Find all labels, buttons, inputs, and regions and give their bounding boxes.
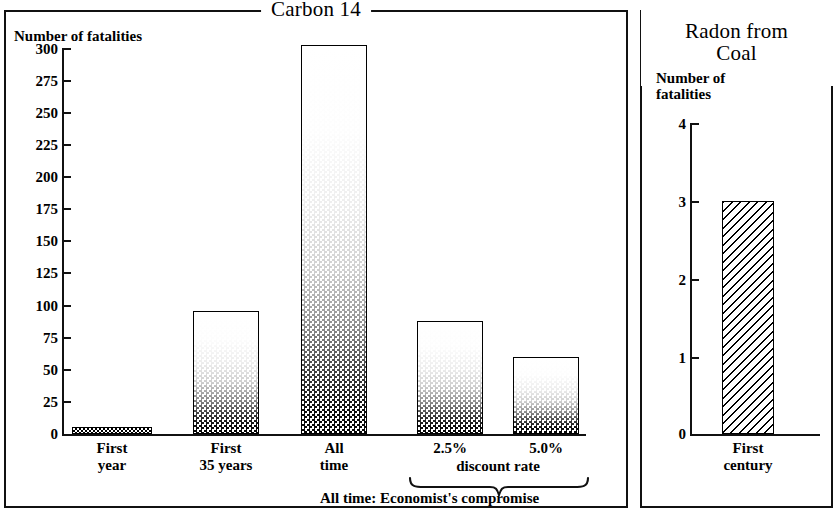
catlabel-first-year-line2: year <box>62 457 162 474</box>
radon-x-axis-line <box>690 434 820 436</box>
carbon-tick-125 <box>62 272 71 274</box>
catlabel-first-35-years-line1: First <box>176 440 276 457</box>
carbon-tick-150 <box>62 240 71 242</box>
figure-root: Carbon 14 Number of fatalities 300 275 2… <box>0 0 837 519</box>
catlabel-first-century-line1: First <box>698 440 798 457</box>
catlabel-first-century-line2: century <box>698 457 798 474</box>
catlabel-first-year-line1: First <box>62 440 162 457</box>
carbon-ticklabel-300: 300 <box>10 42 58 56</box>
radon-y-axis-label: Number of fatalities <box>656 70 725 102</box>
carbon-ticklabel-100: 100 <box>10 299 58 313</box>
carbon-tick-25 <box>62 401 71 403</box>
radon-ticklabel-2: 2 <box>648 273 686 287</box>
carbon-group-label: discount rate <box>400 458 596 475</box>
carbon-tick-175 <box>62 208 71 210</box>
carbon-tick-75 <box>62 337 71 339</box>
carbon-ticklabel-0: 0 <box>10 427 58 441</box>
bar-discount-5-0 <box>513 357 579 434</box>
carbon-ticklabel-50: 50 <box>10 363 58 377</box>
catlabel-all-time-line1: All <box>284 440 384 457</box>
panel-carbon-14: Carbon 14 Number of fatalities 300 275 2… <box>4 10 628 508</box>
carbon-tick-100 <box>62 305 71 307</box>
carbon-tick-275 <box>62 80 71 82</box>
carbon-ticklabel-225: 225 <box>10 138 58 152</box>
carbon-ticklabel-125: 125 <box>10 266 58 280</box>
radon-ticklabel-3: 3 <box>648 195 686 209</box>
radon-tick-3 <box>690 201 699 203</box>
bar-first-year <box>72 427 152 434</box>
carbon-ticklabel-250: 250 <box>10 106 58 120</box>
carbon-tick-300 <box>62 48 71 50</box>
panel-radon-title-line2: Coal <box>651 42 823 64</box>
catlabel-discount-2-5: 2.5% <box>400 440 500 457</box>
radon-tick-2 <box>690 279 699 281</box>
bar-first-35-years <box>193 311 259 434</box>
catlabel-discount-5-0: 5.0% <box>496 440 596 457</box>
carbon-ticklabel-200: 200 <box>10 170 58 184</box>
carbon-ticklabel-150: 150 <box>10 234 58 248</box>
panel-radon-title-line1: Radon from <box>685 19 788 43</box>
carbon-caption: All time: Economist's compromise <box>320 490 539 507</box>
bar-first-century <box>722 201 774 434</box>
carbon-tick-225 <box>62 144 71 146</box>
catlabel-first-35-years-line2: 35 years <box>176 457 276 474</box>
bar-all-time <box>301 45 367 434</box>
carbon-ticklabel-25: 25 <box>10 395 58 409</box>
bar-discount-2-5 <box>417 321 483 434</box>
panel-radon-from-coal: Radon from Coal Number of fatalities 4 3… <box>640 10 833 508</box>
carbon-tick-250 <box>62 112 71 114</box>
radon-ticklabel-1: 1 <box>648 351 686 365</box>
carbon-tick-200 <box>62 176 71 178</box>
radon-ticklabel-0: 0 <box>648 427 686 441</box>
carbon-tick-50 <box>62 369 71 371</box>
radon-tick-1 <box>690 357 699 359</box>
carbon-x-axis-line <box>62 434 586 436</box>
catlabel-all-time-line2: time <box>284 457 384 474</box>
carbon-ticklabel-175: 175 <box>10 202 58 216</box>
carbon-y-axis-line <box>62 49 64 436</box>
carbon-ticklabel-75: 75 <box>10 331 58 345</box>
panel-carbon-14-title: Carbon 14 <box>261 0 371 20</box>
radon-ticklabel-4: 4 <box>648 117 686 131</box>
radon-tick-4 <box>690 123 699 125</box>
carbon-ticklabel-275: 275 <box>10 74 58 88</box>
